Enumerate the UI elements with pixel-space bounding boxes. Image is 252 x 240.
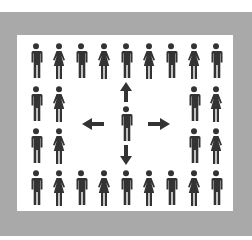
woman-icon bbox=[52, 43, 66, 79]
woman-icon bbox=[52, 86, 66, 122]
arrow-up-icon bbox=[120, 82, 132, 102]
woman-icon bbox=[52, 170, 66, 206]
man-icon bbox=[119, 170, 133, 206]
woman-icon bbox=[209, 86, 223, 122]
man-icon bbox=[74, 43, 88, 79]
man-icon bbox=[187, 86, 201, 122]
man-icon bbox=[187, 128, 201, 164]
man-icon bbox=[119, 43, 133, 79]
center-man-icon bbox=[119, 106, 133, 142]
man-icon bbox=[164, 170, 178, 206]
woman-icon bbox=[142, 43, 156, 79]
man-icon bbox=[29, 43, 43, 79]
man-icon bbox=[209, 43, 223, 79]
woman-icon bbox=[187, 170, 201, 206]
woman-icon bbox=[142, 170, 156, 206]
man-icon bbox=[29, 86, 43, 122]
woman-icon bbox=[97, 170, 111, 206]
man-icon bbox=[29, 170, 43, 206]
man-icon bbox=[209, 170, 223, 206]
arrow-left-icon bbox=[82, 118, 104, 130]
woman-icon bbox=[209, 128, 223, 164]
arrow-down-icon bbox=[120, 145, 132, 165]
woman-icon bbox=[52, 128, 66, 164]
arrow-right-icon bbox=[148, 118, 170, 130]
man-icon bbox=[74, 170, 88, 206]
man-icon bbox=[29, 128, 43, 164]
woman-icon bbox=[97, 43, 111, 79]
woman-icon bbox=[187, 43, 201, 79]
man-icon bbox=[164, 43, 178, 79]
